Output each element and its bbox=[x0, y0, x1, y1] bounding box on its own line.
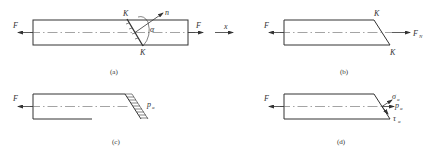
shear-stress-label: τ bbox=[393, 114, 397, 123]
caption-b: (b) bbox=[340, 68, 349, 76]
total-stress-label: p bbox=[394, 101, 399, 110]
figure-canvas: F F x K K n α (a) F F N K K (b) bbox=[0, 0, 432, 155]
left-force-label: F bbox=[263, 21, 269, 30]
section-label-bottom: K bbox=[389, 48, 396, 57]
total-stress-subscript: α bbox=[400, 106, 403, 111]
normal-force-label: F bbox=[412, 29, 418, 38]
section-label-top: K bbox=[122, 9, 129, 18]
normal-force-subscript: N bbox=[418, 34, 423, 39]
shear-stress-arrow bbox=[382, 107, 388, 115]
left-force-label: F bbox=[263, 94, 269, 103]
normal-label: n bbox=[165, 8, 169, 17]
left-force-label: F bbox=[12, 21, 18, 30]
section-label-top: K bbox=[373, 9, 380, 18]
right-force-label: F bbox=[195, 21, 201, 30]
stress-label: p bbox=[146, 100, 151, 109]
angle-arc bbox=[143, 22, 149, 46]
panel-b: F F N K K (b) bbox=[263, 9, 423, 76]
section-hatch bbox=[126, 23, 138, 39]
panel-c: F p α (c) bbox=[12, 94, 155, 146]
panel-a: F F x K K n α (a) bbox=[12, 8, 233, 76]
caption-a: (a) bbox=[110, 68, 118, 76]
left-force-label: F bbox=[12, 94, 18, 103]
angle-arc-top bbox=[138, 17, 148, 22]
section-label-bottom: K bbox=[139, 48, 146, 57]
shear-stress-subscript: α bbox=[398, 119, 401, 124]
distributed-stress-hatch bbox=[125, 94, 148, 119]
normal-stress-arrow bbox=[382, 100, 392, 107]
stress-subscript: α bbox=[152, 105, 155, 110]
x-axis-label: x bbox=[223, 22, 228, 31]
caption-d: (d) bbox=[337, 138, 346, 146]
panel-d: F σ α p α τ α (d) bbox=[263, 92, 403, 146]
caption-c: (c) bbox=[112, 138, 120, 146]
